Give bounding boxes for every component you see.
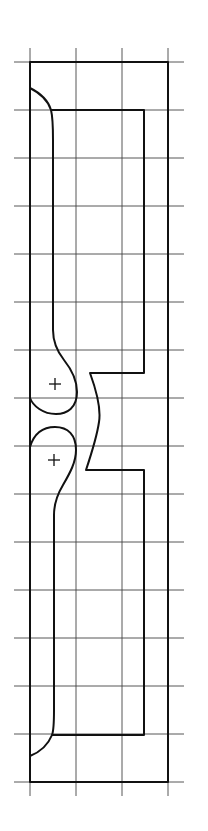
lower-lobe (30, 427, 76, 735)
drawing-canvas (0, 0, 208, 831)
lower-center-mark (48, 454, 60, 466)
upper-lobe (30, 110, 77, 414)
upper-center-mark (49, 378, 61, 390)
inner-profile (30, 88, 144, 756)
